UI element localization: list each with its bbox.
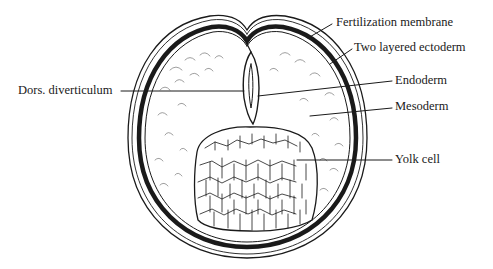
dorsal-diverticulum: [243, 52, 259, 124]
leader-mesoderm: [310, 108, 392, 116]
yolk-cells: [198, 134, 306, 230]
embryo-cross-section-diagram: Fertilization membrane Two layered ectod…: [0, 0, 493, 269]
fertilization-membrane: [128, 16, 367, 258]
label-fertilization-membrane: Fertilization membrane: [336, 16, 453, 29]
leader-endoderm: [258, 81, 392, 96]
label-mesoderm: Mesoderm: [395, 100, 448, 113]
label-endoderm: Endoderm: [395, 74, 447, 87]
yolk-cell-outline: [195, 127, 318, 231]
label-yolk-cell: Yolk cell: [395, 153, 440, 166]
label-dors-diverticulum: Dors. diverticulum: [18, 84, 112, 97]
label-two-layered-ectoderm: Two layered ectoderm: [354, 41, 466, 54]
